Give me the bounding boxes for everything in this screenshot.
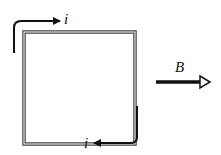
field-label: B <box>175 60 184 75</box>
current-loop <box>24 32 135 144</box>
current-arrow-top <box>14 21 60 53</box>
diagram: i i B <box>0 0 221 155</box>
diagram-graphics <box>0 0 221 155</box>
magnetic-field-arrow <box>156 76 210 88</box>
current-label-bottom: i <box>84 136 88 151</box>
current-arrow-bottom <box>94 106 137 143</box>
current-label-top: i <box>64 12 68 27</box>
